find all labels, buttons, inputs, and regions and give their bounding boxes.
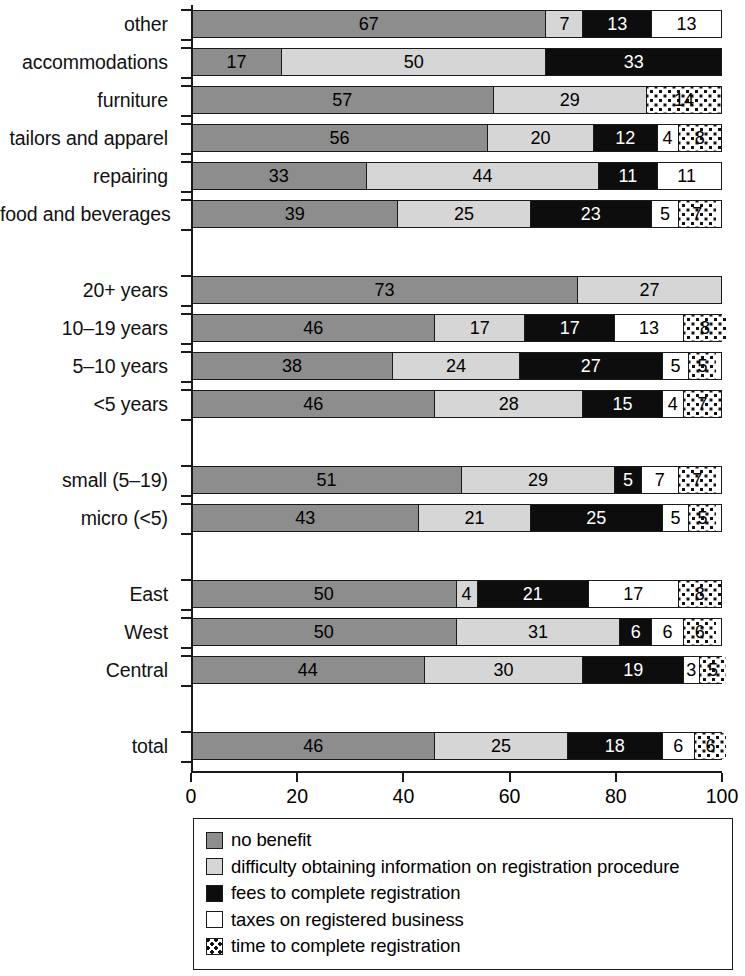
row-category-label: East [0, 575, 180, 613]
bar-segment-value: 25 [491, 737, 511, 755]
row-category-label: 5–10 years [0, 347, 180, 385]
row-category-label: repairing [0, 157, 180, 195]
bar-segment-value: 13 [677, 15, 697, 33]
bar-segment-value: 5 [671, 357, 681, 375]
bar-segment-value: 50 [404, 53, 424, 71]
legend-swatch-taxes [206, 911, 223, 928]
bar-segment-value: 21 [523, 585, 543, 603]
legend-item-label: time to complete registration [231, 937, 460, 956]
legend-item[interactable]: difficulty obtaining information on regi… [206, 854, 722, 881]
bar-segment-value: 6 [695, 623, 705, 641]
bar-segment-value: 20 [531, 129, 551, 147]
bar-segment-value: 29 [528, 471, 548, 489]
bar-segment-value: 11 [619, 167, 638, 185]
bar-segment-value: 6 [673, 737, 683, 755]
legend-swatch-difficulty [206, 858, 223, 875]
legend-swatch-no-benefit [206, 832, 223, 849]
bar-segment-value: 46 [303, 737, 323, 755]
y-axis-tick [181, 123, 191, 125]
row-category-label: other [0, 5, 180, 43]
bar-segment-value: 14 [674, 91, 694, 109]
bar-segment-value: 38 [282, 357, 302, 375]
bar-segment-value: 5 [623, 471, 633, 489]
y-axis-tick [181, 389, 191, 391]
y-axis-tick [181, 199, 191, 201]
bar-segment-value: 29 [560, 91, 580, 109]
bar-segment-value: 51 [316, 471, 336, 489]
bar-segment-value: 15 [613, 395, 633, 413]
x-axis-tick-label: 80 [605, 785, 627, 808]
bar-segment-value: 3 [686, 661, 696, 679]
bar-segment-value: 21 [464, 509, 484, 527]
bar-segment-value: 6 [705, 737, 715, 755]
bar-segment-value: 33 [269, 167, 289, 185]
y-axis-tick [181, 761, 191, 763]
y-axis-tick [181, 343, 191, 345]
y-axis-tick [181, 153, 191, 155]
x-axis-tick-label: 40 [393, 785, 415, 808]
x-axis-tick-label: 100 [706, 785, 739, 808]
y-axis-tick [181, 419, 191, 421]
y-axis-tick [181, 39, 191, 41]
bar-segment-value: 8 [695, 129, 705, 147]
bar-segment-value: 5 [708, 661, 718, 679]
bar-segment-value: 17 [226, 53, 246, 71]
legend-item[interactable]: fees to complete registration [206, 880, 722, 907]
legend-swatch-time [206, 938, 223, 955]
bar-segment-value: 73 [375, 281, 395, 299]
bar-segment-value: 5 [697, 509, 707, 527]
row-category-label: tailors and apparel [0, 119, 180, 157]
y-axis-tick [181, 381, 191, 383]
bar-segment-value: 17 [623, 585, 643, 603]
y-axis-tick [181, 161, 191, 163]
row-category-label: small (5–19) [0, 461, 180, 499]
bar-segment-value: 8 [695, 585, 705, 603]
y-axis-tick [181, 503, 191, 505]
legend-item-label: difficulty obtaining information on regi… [231, 858, 679, 877]
row-category-label: West [0, 613, 180, 651]
bar-segment-value: 5 [671, 509, 681, 527]
x-axis-tick [509, 773, 511, 782]
row-category-label: 20+ years [0, 271, 180, 309]
row-category-label: furniture [0, 81, 180, 119]
y-axis-tick [181, 305, 191, 307]
y-axis-tick [181, 495, 191, 497]
y-axis-tick [181, 647, 191, 649]
bar-segment-value: 23 [581, 205, 601, 223]
row-category-label: Central [0, 651, 180, 689]
y-axis-tick [181, 609, 191, 611]
bar-segment-value: 28 [499, 395, 519, 413]
y-axis-tick [181, 191, 191, 193]
bar-segment-value: 4 [663, 129, 673, 147]
bar-segment-value: 6 [663, 623, 673, 641]
y-axis-tick [181, 77, 191, 79]
chart-legend: no benefitdifficulty obtaining informati… [193, 818, 733, 970]
legend-item[interactable]: no benefit [206, 827, 722, 854]
bar-segment-value: 67 [359, 15, 379, 33]
bar-segment-value: 27 [581, 357, 601, 375]
bar-segment-value: 25 [586, 509, 606, 527]
y-axis-tick [181, 579, 191, 581]
y-axis-tick [181, 465, 191, 467]
legend-item[interactable]: taxes on registered business [206, 907, 722, 934]
y-axis-tick [181, 275, 191, 277]
bar-segment-value: 13 [607, 15, 627, 33]
x-axis-tick [296, 773, 298, 782]
bar-segment-value: 50 [314, 585, 334, 603]
bar-segment-value: 18 [605, 737, 625, 755]
x-axis-tick [721, 773, 723, 782]
row-category-label: micro (<5) [0, 499, 180, 537]
y-axis-tick [181, 533, 191, 535]
bar-segment-value: 44 [472, 167, 492, 185]
y-axis-tick [181, 655, 191, 657]
bar-segment-value: 4 [462, 585, 472, 603]
bar-segment-value: 39 [285, 205, 305, 223]
legend-item-label: taxes on registered business [231, 911, 464, 930]
bar-segment-value: 56 [330, 129, 350, 147]
bar-segment-value: 13 [639, 319, 659, 337]
y-axis-line [191, 5, 193, 773]
bar-segment-value: 19 [623, 661, 643, 679]
x-axis-tick-label: 60 [499, 785, 521, 808]
bar-segment-value: 33 [624, 53, 644, 71]
legend-item[interactable]: time to complete registration [206, 933, 722, 960]
